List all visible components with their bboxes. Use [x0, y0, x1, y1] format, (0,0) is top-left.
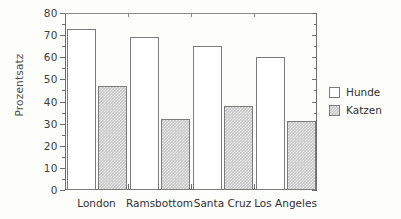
- bar-chart: Prozentsatz 01020304050607080 LondonRams…: [0, 0, 401, 219]
- y-axis-minor-tick: [62, 24, 65, 25]
- y-axis-minor-tick: [62, 157, 65, 158]
- bar-katzen-ramsbottom: [161, 119, 190, 190]
- y-axis-tick-label: 30: [44, 118, 58, 130]
- legend-swatch-hunde-icon: [329, 87, 340, 98]
- x-axis-category-label: Santa Cruz: [194, 197, 251, 209]
- y-axis-tick-right: [312, 13, 317, 14]
- bar-hunde-los-angeles: [256, 57, 285, 190]
- y-axis-tick-label: 20: [44, 140, 58, 152]
- y-axis-tick: [60, 102, 65, 103]
- y-axis-tick-right: [312, 79, 317, 80]
- y-axis-tick: [60, 13, 65, 14]
- y-axis-minor-tick: [62, 46, 65, 47]
- y-axis-minor-tick: [62, 113, 65, 114]
- chart-legend: HundeKatzen: [329, 84, 382, 120]
- bar-katzen-london: [98, 86, 127, 190]
- x-axis-category-label: London: [77, 197, 116, 209]
- y-axis-tick: [60, 57, 65, 58]
- y-axis-tick: [60, 124, 65, 125]
- legend-item-katzen: Katzen: [329, 102, 382, 118]
- top-axis-tick: [191, 13, 192, 17]
- y-axis-tick-right: [312, 57, 317, 58]
- y-axis-tick-label: 60: [44, 51, 58, 63]
- bar-katzen-santa-cruz: [224, 106, 253, 190]
- bar-hunde-ramsbottom: [130, 37, 159, 190]
- y-axis-minor-tick: [62, 90, 65, 91]
- y-axis-minor-tick-right: [314, 90, 317, 91]
- plot-area: 01020304050607080 LondonRamsbottomSanta …: [65, 13, 317, 190]
- y-axis-tick: [60, 190, 65, 191]
- y-axis-tick-label: 40: [44, 96, 58, 108]
- y-axis-minor-tick-right: [314, 113, 317, 114]
- y-axis-tick-right: [312, 35, 317, 36]
- top-axis-tick: [254, 13, 255, 17]
- y-axis-tick-label: 80: [44, 7, 58, 19]
- y-axis-tick-right: [312, 102, 317, 103]
- x-axis-category-label: Ramsbottom: [126, 197, 193, 209]
- y-axis-minor-tick: [62, 179, 65, 180]
- y-axis-tick: [60, 79, 65, 80]
- y-axis-tick-label: 0: [51, 184, 58, 196]
- x-axis-category-label: Los Angeles: [254, 197, 317, 209]
- y-axis-tick-right: [312, 190, 317, 191]
- y-axis-minor-tick: [62, 68, 65, 69]
- y-axis-tick-label: 10: [44, 162, 58, 174]
- legend-label: Katzen: [346, 104, 382, 116]
- y-axis-minor-tick: [62, 135, 65, 136]
- y-axis-minor-tick-right: [314, 46, 317, 47]
- y-axis-tick: [60, 146, 65, 147]
- y-axis-minor-tick-right: [314, 24, 317, 25]
- bar-hunde-santa-cruz: [193, 46, 222, 190]
- y-axis-tick-label: 50: [44, 73, 58, 85]
- y-axis-tick-label: 70: [44, 29, 58, 41]
- legend-swatch-katzen-icon: [329, 105, 340, 116]
- y-axis-title: Prozentsatz: [13, 30, 25, 140]
- y-axis-tick: [60, 35, 65, 36]
- bar-hunde-london: [67, 29, 96, 191]
- legend-item-hunde: Hunde: [329, 84, 382, 100]
- legend-label: Hunde: [346, 86, 380, 98]
- y-axis-minor-tick-right: [314, 68, 317, 69]
- top-axis-tick: [128, 13, 129, 17]
- y-axis-tick: [60, 168, 65, 169]
- bar-katzen-los-angeles: [287, 121, 316, 190]
